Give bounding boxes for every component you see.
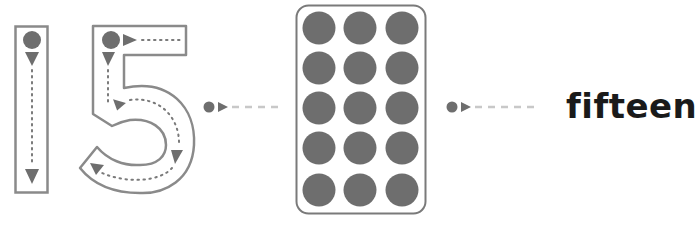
counter-dot xyxy=(386,52,419,85)
start-dot-icon xyxy=(102,31,120,49)
counter-dot xyxy=(386,12,419,45)
counter-dot xyxy=(303,174,336,207)
counting-frame xyxy=(297,6,426,214)
digit-five-tracing xyxy=(80,26,194,193)
counter-dot xyxy=(344,132,377,165)
counter-dot xyxy=(386,174,419,207)
counter-dot xyxy=(303,92,336,125)
counter-dot xyxy=(386,132,419,165)
connector-arrow xyxy=(447,102,541,113)
arrow-right-icon xyxy=(461,102,471,112)
connector-arrow xyxy=(204,102,281,113)
counter-dot xyxy=(303,132,336,165)
start-dot-icon xyxy=(204,102,215,113)
counters xyxy=(303,12,419,207)
start-dot-icon xyxy=(447,102,458,113)
number-word: fifteen xyxy=(566,86,696,126)
counter-dot xyxy=(303,12,336,45)
arrow-right-icon xyxy=(218,102,228,112)
digit-one-tracing xyxy=(16,27,48,193)
counter-dot xyxy=(303,52,336,85)
counter-dot xyxy=(344,174,377,207)
digit-one-outline xyxy=(16,27,48,193)
counter-dot xyxy=(344,52,377,85)
number-worksheet: fifteen xyxy=(0,0,696,226)
counter-dot xyxy=(386,92,419,125)
counter-dot xyxy=(344,92,377,125)
start-dot-icon xyxy=(23,31,41,49)
counter-dot xyxy=(344,12,377,45)
